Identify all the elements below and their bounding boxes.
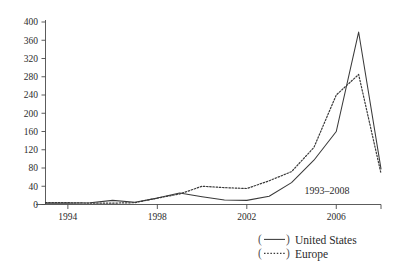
y-tick-label: 320	[24, 54, 39, 64]
x-axis-tick-labels: 1994199820022006	[58, 212, 346, 222]
legend-label-europe: Europe	[295, 248, 328, 261]
x-tick-label: 1994	[58, 212, 77, 222]
x-axis: 1994199820022006	[36, 205, 381, 223]
y-tick-label: 280	[24, 72, 39, 82]
y-tick-label: 40	[29, 182, 39, 192]
y-tick-label: 200	[24, 109, 39, 119]
x-tick-label: 1998	[148, 212, 167, 222]
data-series-group	[46, 32, 382, 203]
y-tick-label: 120	[24, 145, 39, 155]
legend-marker-close-paren-0: )	[286, 233, 290, 246]
legend-marker-open-paren-1: (	[258, 247, 262, 260]
chart-legend: ( ) United States ( ) Europe	[258, 233, 357, 261]
range-annotation: 1993–2008	[305, 185, 350, 196]
y-axis: 04080120160200240280320360400	[24, 17, 46, 210]
line-chart: 04080120160200240280320360400 1994199820…	[0, 0, 396, 267]
legend-entry-europe: ( ) Europe	[258, 247, 328, 261]
x-tick-label: 2002	[237, 212, 256, 222]
y-tick-label: 360	[24, 36, 39, 46]
legend-entry-united-states: ( ) United States	[258, 233, 357, 246]
x-axis-ticks	[68, 205, 381, 210]
legend-marker-close-paren-1: )	[286, 247, 290, 260]
y-tick-label: 240	[24, 90, 39, 100]
x-tick-label: 2006	[327, 212, 346, 222]
legend-marker-open-paren-0: (	[258, 233, 262, 246]
legend-label-united-states: United States	[295, 234, 357, 246]
y-tick-label: 80	[29, 163, 39, 173]
y-tick-label: 160	[24, 127, 39, 137]
y-axis-tick-labels: 04080120160200240280320360400	[24, 17, 39, 210]
y-axis-ticks	[42, 22, 46, 205]
chart-figure: 04080120160200240280320360400 1994199820…	[0, 0, 396, 267]
series-line-united-states	[46, 32, 382, 203]
y-tick-label: 400	[24, 17, 39, 27]
